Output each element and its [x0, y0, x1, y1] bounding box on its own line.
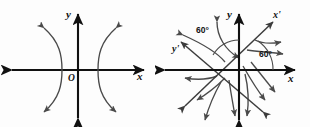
angle-label-upper-left: 60°: [196, 25, 209, 35]
left-origin-label: O: [68, 73, 75, 83]
fieldline-left-lower-a: [185, 76, 217, 79]
right-x-axis-label: x: [287, 72, 294, 84]
fieldline-lower-right: [245, 74, 248, 116]
left-x-axis-label: x: [136, 70, 143, 82]
y-prime-axis: [181, 42, 263, 112]
x-prime-axis-label: x': [272, 9, 281, 20]
figure-root: x y O: [0, 0, 310, 127]
angle-label-lower-right: 60°: [259, 49, 272, 59]
left-diagram-svg: x y O: [0, 0, 155, 127]
right-y-axis-label: y: [225, 8, 232, 20]
rotated-axes-panel: x y x' y' 60° 60°: [155, 0, 310, 127]
unrotated-axes-panel: x y O: [0, 0, 155, 127]
left-y-axis-label: y: [64, 8, 71, 20]
fieldline-right-lower-a: [251, 62, 275, 92]
right-diagram-svg: x y x' y' 60° 60°: [155, 0, 310, 127]
fieldline-lower-left: [205, 82, 221, 120]
y-prime-axis-label: y': [171, 43, 179, 54]
